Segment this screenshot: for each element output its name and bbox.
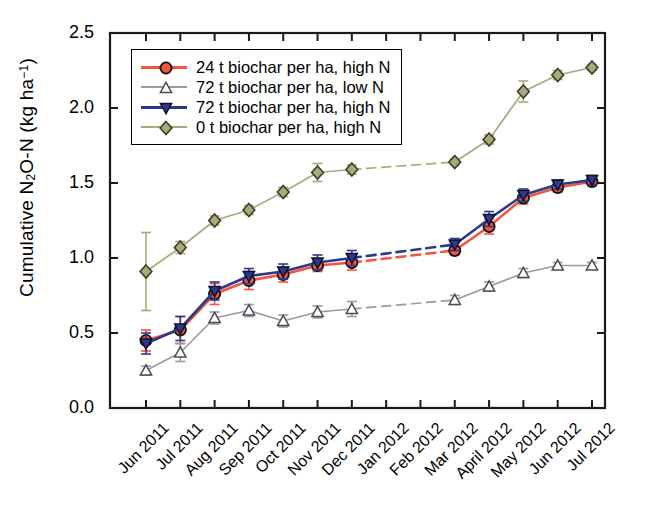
y-axis-tick-label: 2.0: [48, 97, 94, 118]
legend-item: 0 t biochar per ha, high N: [141, 117, 390, 137]
data-point-marker: [140, 265, 152, 278]
series-line: [489, 198, 523, 227]
y-axis-tick-label: 0.0: [48, 397, 94, 418]
data-point-marker: [174, 241, 186, 254]
legend-key: [141, 58, 187, 76]
legend-marker-icon: [158, 80, 174, 96]
legend-marker-icon: [158, 60, 174, 76]
series-line: [455, 140, 489, 163]
legend-label: 72 t biochar per ha, high N: [196, 98, 390, 117]
data-point-marker: [160, 122, 172, 135]
legend-item: 72 t biochar per ha, high N: [141, 97, 390, 117]
series-line: [455, 287, 489, 301]
legend-key: [141, 78, 187, 96]
legend-item: 72 t biochar per ha, low N: [141, 77, 390, 97]
legend-item: 24 t biochar per ha, high N: [141, 57, 390, 77]
data-point-marker: [586, 61, 598, 74]
series-line: [180, 221, 214, 248]
series-2: [140, 260, 597, 375]
series-line-dashed: [352, 300, 455, 309]
data-point-marker: [160, 62, 171, 73]
y-axis-tick-label: 1.0: [48, 247, 94, 268]
figure-container: Cumulative N2O-N (kg ha−1) 0.00.51.01.52…: [0, 0, 651, 525]
y-axis-tick-label: 1.5: [48, 172, 94, 193]
legend-key: [141, 118, 187, 136]
data-point-marker: [243, 305, 254, 315]
chart-legend: 24 t biochar per ha, high N72 t biochar …: [131, 49, 402, 145]
data-point-marker: [160, 104, 171, 114]
legend-marker-icon: [158, 120, 174, 136]
data-point-marker: [312, 166, 324, 179]
series-line: [523, 75, 557, 92]
series-line: [489, 273, 523, 287]
legend-key: [141, 98, 187, 116]
series-line: [283, 173, 317, 193]
series-line: [249, 192, 283, 210]
series-line-dashed: [352, 162, 455, 170]
series-line: [489, 92, 523, 140]
legend-marker-icon: [158, 100, 174, 116]
y-axis-tick-label: 2.5: [48, 22, 94, 43]
series-line: [249, 311, 283, 322]
data-point-marker: [449, 156, 461, 169]
series-3: [140, 176, 597, 355]
legend-label: 0 t biochar per ha, high N: [196, 118, 381, 137]
series-line: [146, 248, 180, 272]
legend-label: 24 t biochar per ha, high N: [196, 58, 390, 77]
data-point-marker: [160, 82, 171, 92]
legend-label: 72 t biochar per ha, low N: [196, 78, 384, 97]
y-axis-tick-label: 0.5: [48, 322, 94, 343]
